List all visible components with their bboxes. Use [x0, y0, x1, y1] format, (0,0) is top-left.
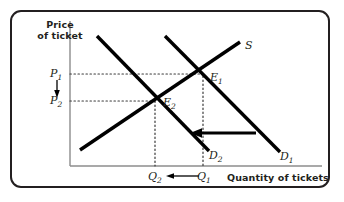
p1-label-sub: 1 — [57, 73, 62, 82]
e2-label-sub: 2 — [171, 102, 176, 111]
y-axis-title-line1: Price — [46, 19, 73, 30]
figure-root: Price of ticket Quantity of tickets S D1… — [0, 0, 344, 202]
e1-label-sub: 1 — [218, 77, 223, 86]
quantity-1-tick-label: Q1 — [197, 170, 211, 185]
supply-curve-label: S — [245, 39, 253, 52]
demand-curve-1-label: D1 — [280, 150, 294, 165]
price-1-tick-label: P1 — [50, 67, 62, 82]
e1-label-text: E — [210, 71, 218, 84]
e2-label-text: E — [163, 96, 171, 109]
y-axis-title: Price of ticket — [30, 19, 90, 41]
quantity-decrease-arrow — [166, 173, 199, 179]
demand-curve-2-label: D2 — [209, 149, 223, 164]
quantity-2-tick-label: Q2 — [148, 170, 162, 185]
x-axis-title: Quantity of tickets — [227, 172, 329, 183]
q2-label-text: Q — [148, 170, 157, 183]
q1-label-sub: 1 — [206, 176, 211, 185]
supply-label-text: S — [245, 39, 253, 52]
q1-label-text: Q — [197, 170, 206, 183]
demand-shift-arrow — [190, 128, 256, 138]
demand2-label-sub: 2 — [218, 155, 223, 164]
equilibrium-1-label: E1 — [210, 71, 223, 86]
y-axis-title-line2: of ticket — [37, 30, 82, 41]
demand1-label-text: D — [280, 150, 289, 163]
p2-label-sub: 2 — [57, 100, 62, 109]
demand1-label-sub: 1 — [289, 156, 294, 165]
equilibrium-2-label: E2 — [163, 96, 176, 111]
price-2-tick-label: P2 — [50, 94, 62, 109]
q2-label-sub: 2 — [157, 176, 162, 185]
demand2-label-text: D — [209, 149, 218, 162]
